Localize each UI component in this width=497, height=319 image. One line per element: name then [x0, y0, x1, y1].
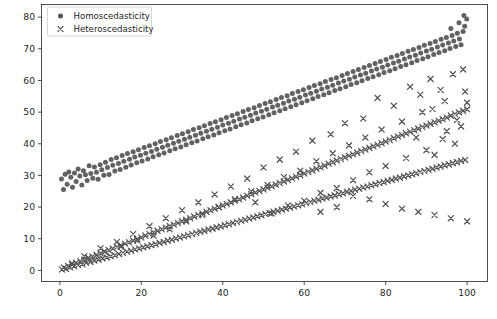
data-point [246, 107, 251, 112]
data-point [314, 89, 319, 94]
data-point [110, 163, 115, 168]
data-point [456, 20, 461, 25]
data-point [209, 127, 214, 132]
figure-container: 020406080100 01020304050607080 Homosceda… [0, 0, 497, 319]
legend-label: Homoscedasticity [74, 11, 150, 21]
data-point [360, 78, 365, 83]
data-point [275, 103, 280, 108]
data-point [385, 62, 390, 67]
data-point [270, 105, 275, 110]
data-point [171, 141, 176, 146]
x-tick-label: 20 [135, 287, 147, 298]
data-point [176, 139, 181, 144]
data-point [112, 169, 117, 174]
data-point [118, 167, 123, 172]
data-point [411, 47, 416, 52]
data-point [136, 147, 141, 152]
data-point [286, 99, 291, 104]
data-point [101, 173, 106, 178]
data-point [178, 144, 183, 149]
data-point [349, 82, 354, 87]
data-point [420, 56, 425, 61]
data-point [202, 123, 207, 128]
data-point [123, 165, 128, 170]
data-point [175, 133, 180, 138]
data-point [131, 149, 136, 154]
data-point [448, 46, 453, 51]
data-point [283, 106, 288, 111]
data-point [268, 99, 273, 104]
scatter-plot: 020406080100 01020304050607080 Homosceda… [0, 0, 497, 319]
data-point [330, 83, 335, 88]
data-point [310, 96, 315, 101]
data-point [120, 153, 125, 158]
data-point [87, 163, 92, 168]
data-point [162, 150, 167, 155]
data-point [407, 55, 412, 60]
data-point [461, 29, 466, 34]
data-point [446, 41, 451, 46]
data-point [325, 85, 330, 90]
data-point [341, 79, 346, 84]
data-point [409, 60, 414, 65]
data-point [417, 45, 422, 50]
data-point [437, 50, 442, 55]
data-point [384, 57, 389, 62]
data-point [455, 31, 460, 36]
data-point [255, 116, 260, 121]
data-point [343, 84, 348, 89]
data-point [316, 94, 321, 99]
data-point [307, 85, 312, 90]
data-point [374, 67, 379, 72]
y-tick-label: 70 [23, 43, 35, 54]
data-point [352, 74, 357, 79]
data-point [461, 13, 466, 18]
data-point [220, 123, 225, 128]
data-point [142, 145, 147, 150]
data-point [290, 91, 295, 96]
data-point [74, 179, 79, 184]
data-point [90, 176, 95, 181]
x-tick-label: 0 [57, 287, 63, 298]
data-point [167, 148, 172, 153]
data-point [323, 79, 328, 84]
data-point [189, 140, 194, 145]
data-point [354, 80, 359, 85]
data-point [415, 58, 420, 63]
data-point [404, 62, 409, 67]
data-point [114, 155, 119, 160]
y-tick-label: 40 [23, 138, 35, 149]
data-point [398, 64, 403, 69]
data-point [59, 176, 64, 181]
data-point [303, 93, 308, 98]
data-point [233, 124, 238, 129]
y-tick-label: 10 [23, 233, 35, 244]
data-point [138, 153, 143, 158]
data-point [336, 81, 341, 86]
data-point [173, 146, 178, 151]
data-point [279, 95, 284, 100]
data-point [400, 51, 405, 56]
legend-label: Heteroscedasticity [74, 24, 154, 34]
data-point [442, 48, 447, 53]
data-point [259, 109, 264, 114]
data-point [362, 65, 367, 70]
data-point [402, 56, 407, 61]
data-point [257, 103, 262, 108]
data-point [321, 92, 326, 97]
data-point [244, 120, 249, 125]
data-point [428, 41, 433, 46]
data-point [296, 89, 301, 94]
data-point [457, 37, 462, 42]
legend[interactable]: HomoscedasticityHeteroscedasticity [48, 7, 154, 36]
data-point [241, 109, 246, 114]
y-tick-label: 0 [29, 265, 35, 276]
data-point [204, 129, 209, 134]
data-point [224, 115, 229, 120]
data-point [198, 131, 203, 136]
data-point [164, 137, 169, 142]
data-point [169, 135, 174, 140]
data-point [371, 74, 376, 79]
data-point [444, 35, 449, 40]
data-point [387, 68, 392, 73]
